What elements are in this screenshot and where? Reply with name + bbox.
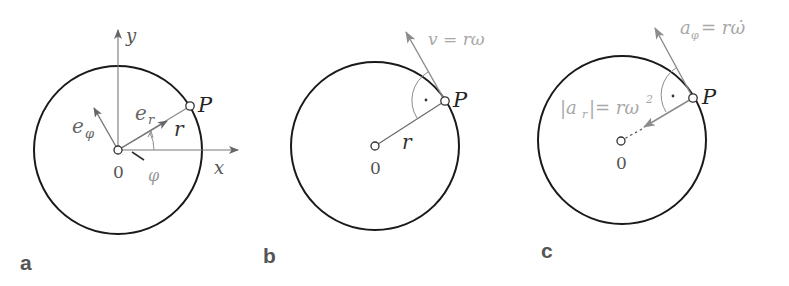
point-p-label: P bbox=[701, 85, 717, 109]
svg-text:φ: φ bbox=[85, 126, 95, 141]
svg-text:|= rω: |= rω bbox=[589, 97, 639, 119]
radial-dashed-extension bbox=[624, 129, 642, 139]
point-p bbox=[186, 102, 194, 110]
radius-label: r bbox=[174, 117, 185, 141]
svg-text:e: e bbox=[72, 114, 84, 138]
angle-tick bbox=[132, 152, 144, 160]
panel-label-b: b bbox=[263, 244, 276, 267]
point-p-label: P bbox=[452, 88, 468, 112]
panel-c: 0 P a φ = rω̇ |a r |= rω 2 c bbox=[538, 17, 745, 262]
origin-label: 0 bbox=[113, 162, 124, 182]
panel-b: 0 P r v = rω b bbox=[263, 29, 485, 267]
svg-text:φ: φ bbox=[691, 29, 699, 42]
panel-a: y x 0 P r φ e r e φ a bbox=[20, 25, 238, 274]
tangential-acceleration-arrow bbox=[655, 28, 693, 98]
point-p bbox=[441, 97, 449, 105]
origin-point bbox=[617, 137, 625, 145]
point-p-label: P bbox=[197, 93, 213, 117]
right-angle-dot bbox=[672, 95, 675, 98]
right-angle-dot bbox=[425, 99, 428, 102]
circular-motion-figure: y x 0 P r φ e r e φ a bbox=[0, 0, 789, 286]
angle-phi-label: φ bbox=[148, 166, 160, 185]
origin-label: 0 bbox=[616, 153, 627, 173]
unit-vector-er-arrow bbox=[118, 121, 167, 150]
svg-text:r: r bbox=[582, 108, 588, 121]
radius-label: r bbox=[402, 130, 413, 154]
radial-acceleration-label: |a r |= rω 2 bbox=[560, 93, 653, 121]
unit-vector-ephi-arrow bbox=[94, 108, 118, 150]
er-label: e r bbox=[135, 101, 155, 127]
panel-label-c: c bbox=[541, 239, 553, 262]
y-axis-label: y bbox=[125, 25, 137, 46]
svg-text:r: r bbox=[148, 112, 155, 127]
svg-text:2: 2 bbox=[645, 93, 653, 106]
svg-text:= rω̇: = rω̇ bbox=[701, 17, 745, 38]
x-axis-label: x bbox=[214, 157, 224, 178]
svg-text:|a: |a bbox=[560, 97, 577, 119]
origin-point bbox=[371, 142, 379, 150]
svg-text:e: e bbox=[135, 101, 147, 125]
velocity-label: v = rω bbox=[428, 29, 485, 49]
ephi-label: e φ bbox=[72, 114, 95, 141]
point-p bbox=[689, 94, 697, 102]
panel-label-a: a bbox=[20, 251, 32, 274]
origin-label: 0 bbox=[370, 158, 381, 178]
origin-point bbox=[114, 146, 122, 154]
tangential-acceleration-label: a φ = rω̇ bbox=[680, 17, 745, 42]
svg-text:a: a bbox=[680, 17, 691, 38]
